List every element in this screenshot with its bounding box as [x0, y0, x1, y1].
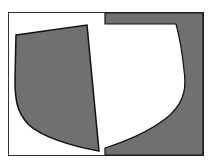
- diagram-canvas: [0, 0, 212, 164]
